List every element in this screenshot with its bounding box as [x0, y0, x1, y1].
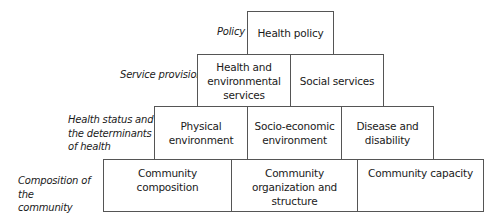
box-physical-environment: Physical environment: [154, 106, 248, 160]
box-text: Social services: [300, 74, 375, 88]
box-health-policy: Health policy: [247, 11, 334, 55]
box-community-organization: Community organization and structure: [231, 159, 358, 212]
box-text: Community capacity: [368, 166, 473, 180]
box-health-environmental-services: Health and environmental services: [197, 54, 291, 107]
level-label-composition: Composition of the community: [18, 174, 108, 215]
box-text: Health policy: [257, 26, 323, 40]
box-community-composition: Community composition: [103, 159, 232, 212]
box-text: Community composition: [137, 166, 199, 194]
box-text: Disease and disability: [356, 119, 418, 147]
box-text: Physical environment: [169, 119, 234, 147]
box-community-capacity: Community capacity: [357, 159, 484, 212]
box-text: Socio-economic environment: [254, 119, 334, 147]
box-text: Community organization and structure: [252, 166, 337, 208]
box-socio-economic-environment: Socio-economic environment: [247, 106, 342, 160]
level-label-service-provision: Service provision: [120, 68, 202, 82]
level-label-policy: Policy: [217, 25, 245, 39]
level-label-health-status: Health status and the determinants of he…: [68, 113, 158, 154]
box-disease-and-disability: Disease and disability: [341, 106, 434, 160]
box-text: Health and environmental services: [207, 60, 281, 102]
box-social-services: Social services: [290, 54, 384, 107]
